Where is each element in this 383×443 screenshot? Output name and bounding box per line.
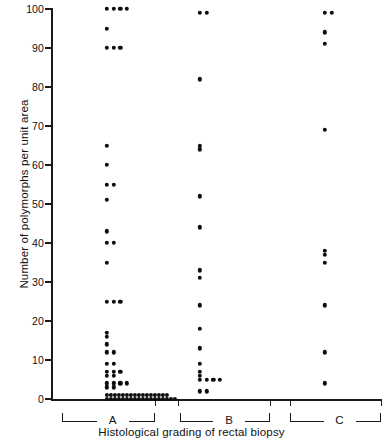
- data-point: [323, 252, 327, 256]
- y-tick-90: [45, 47, 51, 48]
- data-point: [204, 389, 208, 393]
- data-point: [105, 385, 109, 389]
- data-point: [198, 268, 202, 272]
- data-point: [105, 163, 109, 167]
- y-axis-title: Number of polymorphs per unit area: [18, 74, 30, 314]
- data-point: [111, 241, 115, 245]
- data-point: [198, 362, 202, 366]
- data-point: [105, 369, 109, 373]
- x-tick: [270, 400, 271, 406]
- data-point: [118, 381, 122, 385]
- data-point: [105, 46, 109, 50]
- data-point: [105, 7, 109, 11]
- data-point: [323, 303, 327, 307]
- data-point: [323, 42, 327, 46]
- data-point: [198, 77, 202, 81]
- data-point: [111, 373, 115, 377]
- y-tick-0: [45, 398, 51, 399]
- y-tick-30: [45, 281, 51, 282]
- y-tick-80: [45, 86, 51, 87]
- data-point: [218, 377, 222, 381]
- data-point: [198, 369, 202, 373]
- data-point: [198, 225, 202, 229]
- data-point: [105, 241, 109, 245]
- dot-plot-figure: 0102030405060708090100 ABC Histological …: [0, 0, 383, 443]
- y-tick-label-90: 90: [8, 43, 44, 53]
- data-point: [111, 46, 115, 50]
- data-point: [198, 276, 202, 280]
- data-point: [198, 346, 202, 350]
- data-point: [204, 11, 208, 15]
- data-point: [105, 143, 109, 147]
- bracket-label-a: A: [97, 414, 129, 426]
- data-point: [198, 373, 202, 377]
- data-point: [111, 362, 115, 366]
- data-point: [105, 330, 109, 334]
- data-point: [323, 260, 327, 264]
- bracket-label-b: B: [213, 414, 245, 426]
- data-point: [211, 377, 215, 381]
- data-point: [111, 299, 115, 303]
- y-tick-label-10: 10: [8, 355, 44, 365]
- y-tick-20: [45, 320, 51, 321]
- data-point: [105, 198, 109, 202]
- data-point: [105, 260, 109, 264]
- data-point: [323, 30, 327, 34]
- y-tick-50: [45, 203, 51, 204]
- y-tick-100: [45, 8, 51, 9]
- x-tick: [178, 400, 179, 406]
- y-axis-line: [51, 8, 53, 400]
- y-tick-40: [45, 242, 51, 243]
- y-tick-70: [45, 125, 51, 126]
- data-point: [198, 389, 202, 393]
- data-point: [125, 7, 129, 11]
- data-point: [198, 377, 202, 381]
- y-tick-60: [45, 164, 51, 165]
- data-point: [105, 299, 109, 303]
- x-axis-title: Histological grading of rectal biopsy: [0, 426, 383, 438]
- x-tick: [155, 400, 156, 406]
- data-point: [323, 381, 327, 385]
- data-point: [198, 327, 202, 331]
- data-point: [198, 147, 202, 151]
- y-tick-label-20: 20: [8, 316, 44, 326]
- x-axis-line: [51, 399, 382, 401]
- bracket-label-c: C: [324, 414, 356, 426]
- data-point: [105, 26, 109, 30]
- data-point: [118, 7, 122, 11]
- data-point: [198, 11, 202, 15]
- x-tick: [290, 400, 291, 406]
- data-point: [204, 377, 208, 381]
- data-point: [105, 350, 109, 354]
- data-point: [111, 385, 115, 389]
- data-point: [105, 373, 109, 377]
- data-point: [105, 381, 109, 385]
- data-point: [105, 229, 109, 233]
- data-point: [118, 46, 122, 50]
- y-tick-label-100: 100: [8, 4, 44, 14]
- data-point: [111, 381, 115, 385]
- y-tick-10: [45, 359, 51, 360]
- data-point: [323, 249, 327, 253]
- data-point: [105, 182, 109, 186]
- data-point: [111, 369, 115, 373]
- data-point: [118, 369, 122, 373]
- y-tick-label-0: 0: [8, 394, 44, 404]
- x-tick: [381, 400, 382, 406]
- data-point: [105, 362, 109, 366]
- data-point: [323, 350, 327, 354]
- data-point: [105, 334, 109, 338]
- data-point: [111, 350, 115, 354]
- data-point: [111, 182, 115, 186]
- data-point: [118, 299, 122, 303]
- data-point: [198, 143, 202, 147]
- data-point: [323, 128, 327, 132]
- data-point: [111, 7, 115, 11]
- data-point: [329, 11, 333, 15]
- data-point: [198, 194, 202, 198]
- data-point: [105, 342, 109, 346]
- data-point: [198, 303, 202, 307]
- data-point: [323, 11, 327, 15]
- data-point: [125, 381, 129, 385]
